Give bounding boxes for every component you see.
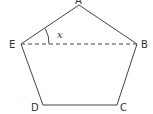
angle-arc [45,29,49,44]
vertex-label-c: C [120,102,127,113]
vertex-label-b: B [141,39,148,50]
vertex-label-a: A [75,0,82,6]
vertex-label-e: E [9,39,15,50]
angle-label-x: x [57,29,63,40]
pentagon-diagram: x A B C D E [0,0,153,114]
vertex-label-d: D [31,102,39,113]
pentagon-outline [21,5,137,105]
